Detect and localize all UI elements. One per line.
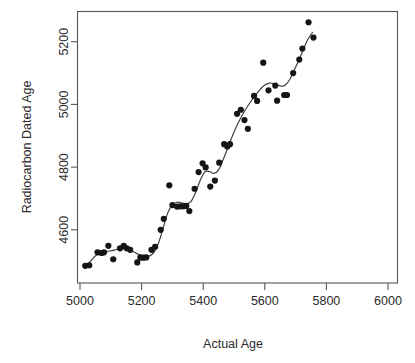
- data-point: [227, 141, 233, 147]
- scatter-plot-figure: 5000 5200 5400 5600 5800 6000 4600 4800 …: [0, 0, 415, 363]
- plot-frame: [78, 12, 398, 284]
- x-tick-label: 5000: [66, 294, 94, 308]
- smoothed-fit-curve: [85, 32, 312, 266]
- data-point: [143, 254, 149, 260]
- data-point: [86, 262, 92, 268]
- data-point: [186, 208, 192, 214]
- data-point: [305, 19, 311, 25]
- x-tick-label: 6000: [374, 294, 402, 308]
- x-axis-title: Actual Age: [203, 337, 263, 351]
- y-tick-label: 4800: [57, 153, 71, 181]
- data-point: [296, 56, 302, 62]
- data-point: [101, 249, 107, 255]
- data-point: [166, 182, 172, 188]
- data-point: [254, 98, 260, 104]
- data-point: [158, 227, 164, 233]
- data-point: [105, 243, 111, 249]
- data-point: [260, 60, 266, 66]
- data-point: [191, 186, 197, 192]
- data-point: [161, 216, 167, 222]
- x-tick-label: 5200: [128, 294, 156, 308]
- data-point: [265, 87, 271, 93]
- data-point: [110, 256, 116, 262]
- x-tick-label: 5600: [251, 294, 279, 308]
- y-axis-ticks: [71, 42, 78, 230]
- y-tick-label: 5200: [57, 28, 71, 56]
- data-point: [195, 169, 201, 175]
- y-tick-label: 5000: [57, 90, 71, 118]
- y-tick-label: 4600: [57, 216, 71, 244]
- x-tick-label: 5400: [189, 294, 217, 308]
- x-axis-ticks: [80, 283, 388, 290]
- x-tick-labels: 5000 5200 5400 5600 5800 6000: [66, 294, 402, 308]
- data-points-layer: [82, 19, 316, 269]
- x-tick-label: 5800: [312, 294, 340, 308]
- data-point: [212, 177, 218, 183]
- data-point: [203, 164, 209, 170]
- data-point: [245, 126, 251, 132]
- data-point: [127, 247, 133, 253]
- data-point: [152, 244, 158, 250]
- y-tick-labels: 4600 4800 5000 5200: [57, 28, 71, 244]
- data-point: [272, 82, 278, 88]
- data-point: [290, 70, 296, 76]
- data-point: [274, 98, 280, 104]
- data-point: [299, 46, 305, 52]
- y-axis-title: Radiocarbon Dated Age: [20, 81, 34, 214]
- data-point: [310, 35, 316, 41]
- data-point: [284, 92, 290, 98]
- data-point: [216, 160, 222, 166]
- data-point: [241, 117, 247, 123]
- data-point: [238, 107, 244, 113]
- data-point: [207, 183, 213, 189]
